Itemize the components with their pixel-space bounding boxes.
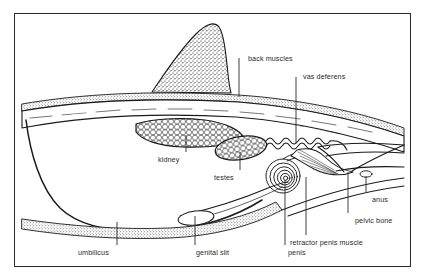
label-retractor-penis-muscle: retractor penis muscle (290, 239, 363, 246)
dorsal-fin-hump (152, 24, 231, 93)
label-umbilicus: umbilicus (78, 249, 109, 256)
label-anus: anus (372, 196, 388, 203)
label-vas-deferens: vas deferens (303, 73, 345, 80)
label-pelvic-bone: pelvic bone (355, 217, 392, 224)
label-penis: penis (288, 249, 306, 256)
ventral-skin-band (22, 202, 282, 239)
diagram-canvas: back musclesvas deferenskidneytestesanus… (0, 0, 427, 280)
label-genital-slit: genital slit (196, 249, 229, 256)
vas-deferens-coil (266, 138, 347, 150)
label-kidney: kidney (158, 156, 179, 163)
retractor-muscle (291, 148, 353, 177)
anatomy-artwork (0, 0, 427, 280)
label-back-muscles: back muscles (248, 55, 293, 62)
label-testes: testes (214, 174, 234, 181)
